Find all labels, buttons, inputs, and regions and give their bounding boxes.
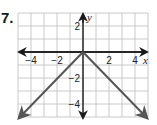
x-tick-label: −4 bbox=[25, 55, 37, 66]
x-axis-label: x bbox=[142, 54, 148, 66]
y-tick-label: 2 bbox=[74, 21, 80, 32]
x-tick-label: 4 bbox=[132, 55, 138, 66]
axes bbox=[19, 14, 147, 118]
y-tick-label: −2 bbox=[69, 73, 81, 84]
coordinate-plane: −4−2242−2−4xy bbox=[0, 0, 157, 125]
x-tick-label: 2 bbox=[106, 55, 112, 66]
y-axis-label: y bbox=[86, 11, 92, 23]
y-tick-label: −4 bbox=[69, 99, 81, 110]
x-tick-label: −2 bbox=[51, 55, 63, 66]
